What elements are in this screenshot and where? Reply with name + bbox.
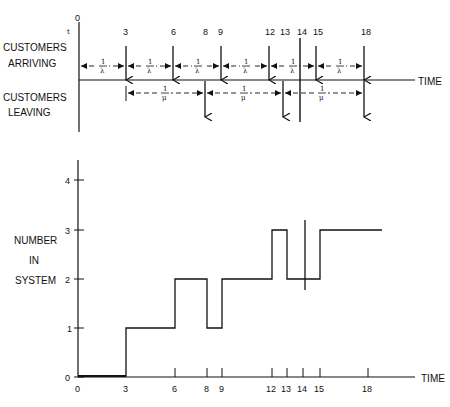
ylabel-line2: IN [29,255,39,266]
svg-text:18: 18 [362,384,372,394]
x-axis-label: TIME [421,373,445,384]
step-line [78,230,382,376]
svg-text:1: 1 [163,85,167,93]
svg-text:λ: λ [337,67,342,75]
svg-text:9: 9 [219,384,224,394]
svg-text:1: 1 [244,58,248,66]
svg-text:6: 6 [172,384,177,394]
t-label: t [67,28,70,36]
svg-text:μ: μ [241,94,246,102]
svg-text:λ: λ [243,67,248,75]
svg-text:λ: λ [147,67,152,75]
arriving-label-line1: CUSTOMERS [3,42,67,53]
queue-diagram: 0 t CUSTOMERS ARRIVING CUSTOMERS LEAVING… [0,0,450,407]
svg-text:6: 6 [171,27,176,37]
svg-text:λ: λ [100,67,105,75]
x-tick-labels: 0 3 6 8 9 12 13 14 15 18 [75,384,372,394]
svg-text:9: 9 [218,27,223,37]
svg-text:0: 0 [75,384,80,394]
svg-text:3: 3 [65,226,70,236]
svg-text:1: 1 [67,324,72,334]
svg-text:15: 15 [314,384,324,394]
svg-text:8: 8 [204,384,209,394]
svg-text:13: 13 [280,27,290,37]
svg-text:1: 1 [338,58,342,66]
svg-text:12: 12 [265,27,275,37]
svg-text:0: 0 [65,373,70,383]
arriving-label-line2: ARRIVING [8,58,57,69]
svg-text:λ: λ [290,67,295,75]
svg-text:12: 12 [266,384,276,394]
origin-label: 0 [75,13,80,23]
time-axis-label: TIME [418,76,442,87]
svg-text:1: 1 [291,58,295,66]
svg-text:1: 1 [196,58,200,66]
svg-text:μ: μ [319,94,324,102]
number-in-system-chart: NUMBER IN SYSTEM TIME 0 1 2 3 4 [14,160,445,394]
svg-text:14: 14 [297,384,307,394]
svg-text:3: 3 [123,384,128,394]
ylabel-line1: NUMBER [14,235,57,246]
departure-arrows [205,81,364,117]
y-tick-labels: 0 1 2 3 4 [65,176,72,383]
svg-text:λ: λ [195,67,200,75]
svg-text:13: 13 [281,384,291,394]
svg-text:8: 8 [203,27,208,37]
top-tick-labels: 3 6 8 9 12 13 14 15 18 [123,27,371,37]
svg-text:3: 3 [123,27,128,37]
ylabel-line3: SYSTEM [15,275,56,286]
leaving-label-line2: LEAVING [8,107,51,118]
y-ticks [74,180,84,377]
arrival-departure-timeline: 0 t CUSTOMERS ARRIVING CUSTOMERS LEAVING… [3,13,442,132]
svg-text:4: 4 [65,176,70,186]
svg-text:18: 18 [361,27,371,37]
svg-text:1: 1 [148,58,152,66]
x-ticks [175,368,368,377]
svg-text:1: 1 [101,58,105,66]
svg-text:14: 14 [297,27,307,37]
svg-text:1: 1 [242,85,246,93]
svg-text:1: 1 [320,85,324,93]
svg-text:15: 15 [313,27,323,37]
svg-text:μ: μ [162,94,167,102]
leaving-label-line1: CUSTOMERS [3,92,67,103]
svg-text:2: 2 [65,275,70,285]
